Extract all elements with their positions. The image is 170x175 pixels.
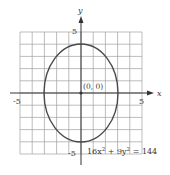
equation-label: 16x2 + 9y2 = 144 [87, 146, 157, 156]
ellipse-plot: x y -5 5 5 -5 (0, 0) 16x2 + 9y2 = 144 [0, 0, 170, 175]
y-axis-arrow-icon [79, 16, 84, 23]
center-label: (0, 0) [83, 82, 103, 91]
center-point [79, 91, 82, 94]
tick-label-x-min: -5 [13, 97, 21, 106]
tick-label-y-max: 5 [72, 27, 77, 36]
y-axis-label: y [77, 6, 83, 15]
x-axis-label: x [157, 89, 162, 98]
tick-label-x-max: 5 [139, 97, 144, 106]
tick-label-y-min: -5 [68, 149, 76, 158]
x-axis-arrow-icon [147, 91, 154, 96]
